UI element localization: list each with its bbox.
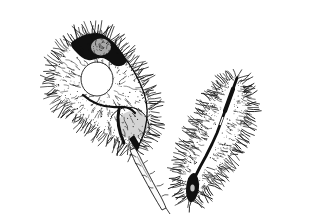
stalk bbox=[130, 148, 170, 214]
stalk-body bbox=[130, 148, 166, 210]
seed-bulge-1 bbox=[81, 62, 113, 96]
right-pod bbox=[168, 69, 262, 212]
pods-illustration bbox=[40, 16, 268, 216]
stalk-tip bbox=[166, 208, 170, 214]
left-pod bbox=[40, 21, 165, 162]
seed-glimpse bbox=[190, 185, 194, 192]
illustration-figure bbox=[40, 16, 268, 216]
